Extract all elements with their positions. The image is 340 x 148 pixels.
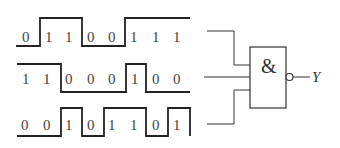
bit-b-4: 0 (108, 71, 116, 87)
nand-gate: & (250, 47, 293, 108)
waveform-b: 1 1 0 0 0 1 0 0 (17, 64, 190, 92)
waveform-a: 0 1 1 0 0 1 1 1 (16, 18, 190, 46)
bit-a-2: 1 (65, 29, 73, 45)
bit-a-4: 0 (108, 29, 116, 45)
bit-a-1: 1 (45, 29, 53, 45)
bit-c-0: 0 (21, 117, 29, 133)
wire-input-a (207, 31, 250, 65)
bit-b-3: 0 (87, 71, 95, 87)
bit-a-3: 0 (87, 29, 95, 45)
wire-input-c (207, 90, 250, 124)
inversion-bubble-icon (286, 74, 293, 81)
bit-c-5: 1 (130, 117, 138, 133)
waveform-c: 0 0 1 0 1 1 0 1 (17, 108, 190, 136)
bit-a-0: 0 (22, 29, 30, 45)
bit-b-1: 1 (43, 71, 51, 87)
output-label: Y (312, 69, 322, 85)
bit-c-3: 0 (87, 117, 95, 133)
bit-c-1: 0 (43, 117, 51, 133)
bit-b-0: 1 (22, 71, 30, 87)
bit-c-4: 1 (108, 117, 116, 133)
bit-c-6: 0 (152, 117, 160, 133)
bit-a-6: 1 (152, 29, 160, 45)
bit-a-7: 1 (173, 29, 181, 45)
gate-symbol: & (261, 55, 277, 77)
logic-diagram: 0 1 1 0 0 1 1 1 1 1 0 0 0 1 0 0 0 0 1 0 … (0, 0, 340, 148)
bit-b-5: 1 (131, 71, 139, 87)
bit-b-6: 0 (152, 71, 160, 87)
bit-c-2: 1 (65, 117, 73, 133)
bit-a-5: 1 (130, 29, 138, 45)
bit-b-2: 0 (65, 71, 73, 87)
bit-b-7: 0 (173, 71, 181, 87)
bit-c-7: 1 (173, 117, 181, 133)
